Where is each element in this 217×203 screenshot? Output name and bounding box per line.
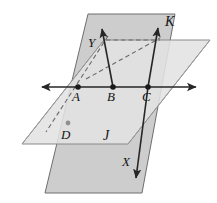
- point-d-label: D: [60, 127, 71, 142]
- plane-k-label: K: [164, 14, 175, 29]
- point-b-label: B: [107, 89, 115, 104]
- plane-j-shape: [22, 40, 210, 144]
- ray-x-label: X: [121, 154, 131, 169]
- plane-j-label: J: [103, 128, 110, 143]
- point-a-label: A: [71, 89, 80, 104]
- geometry-figure: A B C D Y X K J: [0, 0, 217, 203]
- geometry-diagram-container: A B C D Y X K J: [0, 0, 217, 203]
- point-d-dot: [66, 121, 71, 126]
- point-c-label: C: [142, 89, 151, 104]
